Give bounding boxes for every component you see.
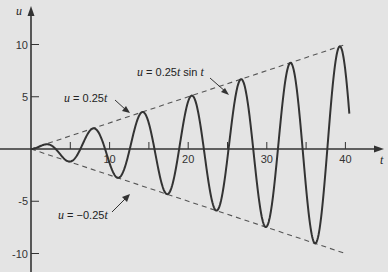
y-tick-label: 5 xyxy=(22,91,28,103)
annotation-lower-arrow xyxy=(112,198,126,212)
y-tick-label: 10 xyxy=(16,39,28,51)
annotation-upper-envelope: u = 0.25t xyxy=(64,91,108,105)
x-axis-label: t xyxy=(380,153,384,167)
x-tick-label: 30 xyxy=(261,153,273,165)
y-axis-arrow-icon xyxy=(28,6,35,16)
y-tick-label: -5 xyxy=(18,195,28,207)
x-tick-label: 10 xyxy=(103,153,115,165)
y-axis-label: u xyxy=(16,4,22,18)
x-tick-label: 20 xyxy=(182,153,194,165)
x-axis-arrow-icon xyxy=(374,146,384,153)
x-tick-label: 40 xyxy=(339,153,351,165)
chart: u t 10203040105-5-10 u = 0.25t sin t u =… xyxy=(0,0,388,272)
y-tick-label: -10 xyxy=(12,248,28,260)
annotation-sin-curve: u = 0.25t sin t xyxy=(137,65,204,79)
annotation-lower-envelope: u = −0.25t xyxy=(58,208,108,222)
